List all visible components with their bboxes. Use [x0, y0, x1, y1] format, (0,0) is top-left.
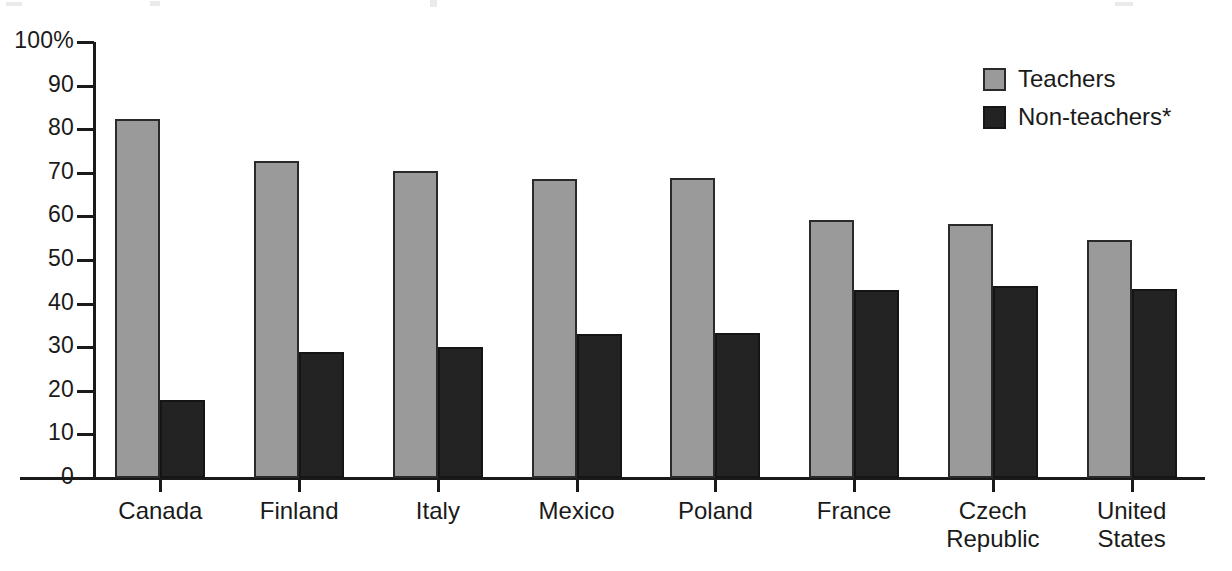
x-axis-tick — [992, 477, 995, 492]
bar-non-teachers — [438, 347, 483, 478]
scan-artifact — [6, 2, 22, 6]
y-axis-tick-value: 10 — [2, 421, 74, 444]
y-axis-tick — [77, 215, 94, 218]
scan-artifact — [430, 0, 437, 7]
bar-teachers — [670, 178, 715, 478]
y-axis-tick-value: 100% — [2, 29, 74, 52]
legend-item-non-teachers: Non-teachers* — [983, 100, 1171, 134]
bar-non-teachers — [577, 334, 622, 478]
y-axis-tick-value: 80 — [2, 116, 74, 139]
y-axis-tick — [77, 172, 94, 175]
y-axis-tick-value: 0 — [2, 465, 74, 488]
y-axis-tick — [77, 433, 94, 436]
y-axis-tick — [77, 128, 94, 131]
bar-non-teachers — [854, 290, 899, 478]
y-axis-tick-value: 30 — [2, 334, 74, 357]
legend-swatch-non-teachers-icon — [983, 106, 1006, 129]
y-axis-tick — [77, 390, 94, 393]
bar-non-teachers — [299, 352, 344, 478]
y-axis-tick-value: 90 — [2, 73, 74, 96]
bar-teachers — [115, 119, 160, 478]
y-axis-tick-value: 50 — [2, 247, 74, 270]
y-axis-tick — [77, 41, 94, 44]
y-axis-tick — [77, 303, 94, 306]
y-axis-tick — [77, 85, 94, 88]
legend-swatch-teachers-icon — [983, 68, 1006, 91]
x-axis-label: United States — [1047, 497, 1217, 553]
y-axis-tick-value: 40 — [2, 291, 74, 314]
x-axis-tick — [576, 477, 579, 492]
bar-chart: 0102030405060708090100% CanadaFinlandIta… — [0, 0, 1232, 571]
legend: Teachers Non-teachers* — [983, 62, 1171, 138]
legend-label-non-teachers: Non-teachers* — [1018, 105, 1171, 129]
scan-artifact — [1115, 2, 1133, 6]
x-axis-tick — [298, 477, 301, 492]
bar-non-teachers — [160, 400, 205, 478]
bar-non-teachers — [993, 286, 1038, 478]
bar-teachers — [948, 224, 993, 478]
bar-non-teachers — [1132, 289, 1177, 478]
scan-artifact — [150, 1, 160, 6]
bar-teachers — [254, 161, 299, 478]
x-axis-tick — [159, 477, 162, 492]
x-axis-tick — [437, 477, 440, 492]
legend-item-teachers: Teachers — [983, 62, 1171, 96]
y-axis-tick-value: 60 — [2, 203, 74, 226]
x-axis-tick — [1131, 477, 1134, 492]
x-axis-tick — [853, 477, 856, 492]
bar-teachers — [532, 179, 577, 478]
y-axis-tick-value: 20 — [2, 378, 74, 401]
legend-label-teachers: Teachers — [1018, 67, 1115, 91]
x-axis-tick — [714, 477, 717, 492]
y-axis-tick — [77, 259, 94, 262]
bar-teachers — [809, 220, 854, 478]
bar-non-teachers — [715, 333, 760, 478]
y-axis-tick — [77, 346, 94, 349]
y-axis-tick — [77, 477, 94, 480]
bar-teachers — [1087, 240, 1132, 478]
bar-teachers — [393, 171, 438, 478]
y-axis-tick-value: 70 — [2, 160, 74, 183]
